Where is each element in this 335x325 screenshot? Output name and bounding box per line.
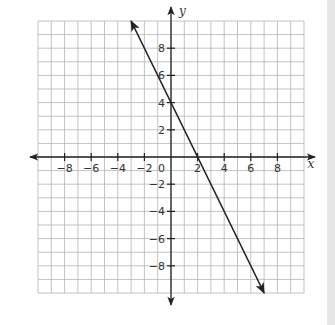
- axes: [30, 7, 315, 305]
- y-tick-label: 4: [158, 97, 165, 110]
- tick-labels: −8−6−4−224688642−2−4−6−80xy: [56, 4, 314, 273]
- x-tick-label: −6: [83, 162, 99, 175]
- x-axis-label: x: [308, 157, 315, 171]
- y-tick-label: −2: [149, 178, 165, 191]
- x-tick-label: 6: [247, 162, 254, 175]
- y-tick-label: 6: [158, 69, 165, 82]
- x-tick-label: −8: [56, 162, 72, 175]
- x-tick-label: −4: [110, 162, 126, 175]
- x-tick-label: 8: [274, 162, 281, 175]
- page-edge-shadow: [327, 0, 335, 325]
- y-axis-label: y: [178, 4, 186, 18]
- x-tick-label: −2: [136, 162, 152, 175]
- x-tick-label: 2: [194, 162, 201, 175]
- origin-label: 0: [158, 162, 165, 175]
- x-tick-label: 4: [221, 162, 228, 175]
- coordinate-plane: −8−6−4−224688642−2−4−6−80xy: [0, 0, 335, 325]
- y-tick-label: −6: [149, 233, 165, 246]
- y-tick-label: 2: [158, 124, 165, 137]
- y-tick-label: −8: [149, 260, 165, 273]
- y-tick-label: −4: [149, 205, 165, 218]
- y-tick-label: 8: [158, 42, 165, 55]
